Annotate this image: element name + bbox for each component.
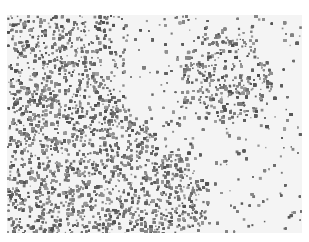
- tissue-canvas: [7, 15, 302, 233]
- micrograph-image: [7, 15, 302, 233]
